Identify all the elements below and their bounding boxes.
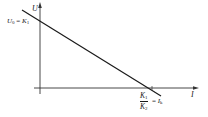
x-axis-label-text: I <box>191 90 194 99</box>
k-subscript: 1 <box>27 20 30 25</box>
fraction-denominator: K2 <box>140 102 148 111</box>
x-intercept-result: = Ik <box>152 98 163 105</box>
denominator-subscript: 2 <box>145 106 148 111</box>
y-axis-label-text: U <box>32 4 38 13</box>
y-axis-arrow-icon <box>38 2 42 8</box>
x-axis-label: I <box>191 91 194 99</box>
fraction-numerator: K1 <box>140 92 148 102</box>
u-i-characteristic-diagram: U U0 = K1 K1 K2 = Ik I <box>0 0 208 117</box>
equals-sign: = <box>15 17 22 25</box>
numerator-subscript: 1 <box>145 95 148 100</box>
i-subscript: k <box>160 100 163 105</box>
diagram-graphics <box>0 0 208 117</box>
y-axis-label: U <box>32 5 38 13</box>
characteristic-line <box>22 10 161 96</box>
y-intercept-label: U0 = K1 <box>7 18 29 25</box>
x-intercept-fraction: K1 K2 <box>140 92 148 111</box>
